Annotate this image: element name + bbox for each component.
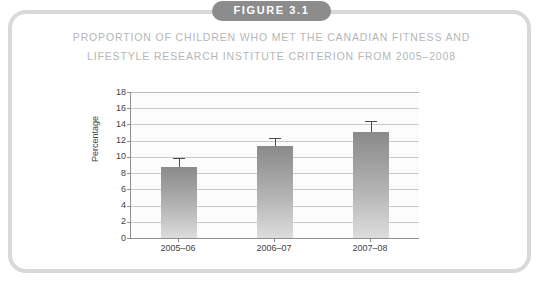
error-bar-line xyxy=(275,138,276,146)
bar xyxy=(161,167,197,238)
y-axis-tick-label: 2 xyxy=(121,217,126,226)
gridline xyxy=(131,92,419,93)
gridline xyxy=(131,124,419,125)
y-axis-tick-label: 14 xyxy=(116,120,126,129)
chart-plot: Percentage 024681012141618 2005–062006–0… xyxy=(0,0,543,285)
x-axis-tick-mark xyxy=(274,238,275,242)
y-axis-tick-label: 0 xyxy=(121,234,126,243)
y-axis-tick-mark xyxy=(127,92,130,93)
y-axis-title: Percentage xyxy=(90,132,100,146)
y-axis-tick-mark xyxy=(127,157,130,158)
y-axis-tick-label: 6 xyxy=(121,185,126,194)
y-axis-tick-labels: 024681012141618 xyxy=(104,92,126,238)
y-axis-tick-mark xyxy=(127,206,130,207)
figure-container: FIGURE 3.1 PROPORTION OF CHILDREN WHO ME… xyxy=(0,0,543,285)
bar xyxy=(257,146,293,238)
bar xyxy=(353,132,389,238)
error-bar-cap xyxy=(269,138,281,139)
x-axis-tick-mark xyxy=(370,238,371,242)
y-axis-tick-label: 18 xyxy=(116,88,126,97)
x-axis-tick-label: 2005–06 xyxy=(138,243,218,253)
error-bar-line xyxy=(371,121,372,132)
plot-area xyxy=(130,92,419,239)
error-bar-cap xyxy=(173,158,185,159)
x-axis-tick-mark xyxy=(178,238,179,242)
y-axis-tick-mark xyxy=(127,108,130,109)
y-axis-tick-label: 4 xyxy=(121,201,126,210)
y-axis-tick-mark xyxy=(127,222,130,223)
y-axis-tick-label: 12 xyxy=(116,136,126,145)
error-bar-line xyxy=(179,158,180,168)
y-axis-tick-mark xyxy=(127,189,130,190)
y-axis-title-text: Percentage xyxy=(90,106,100,172)
y-axis-tick-label: 8 xyxy=(121,169,126,178)
figure-badge: FIGURE 3.1 xyxy=(212,1,332,21)
y-axis-tick-mark xyxy=(127,173,130,174)
error-bar-cap xyxy=(365,121,377,122)
x-axis-tick-label: 2006–07 xyxy=(234,243,314,253)
y-axis-tick-label: 16 xyxy=(116,104,126,113)
y-axis-tick-mark xyxy=(127,141,130,142)
y-axis-tick-mark xyxy=(127,238,130,239)
gridline xyxy=(131,108,419,109)
y-axis-tick-mark xyxy=(127,124,130,125)
y-axis-tick-label: 10 xyxy=(116,152,126,161)
x-axis-tick-label: 2007–08 xyxy=(330,243,410,253)
